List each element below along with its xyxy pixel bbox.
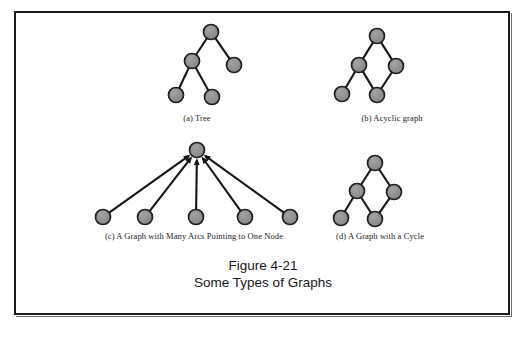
graph-node bbox=[368, 156, 383, 171]
graph-node bbox=[138, 210, 153, 225]
figure-subtitle: Some Types of Graphs bbox=[0, 275, 526, 290]
figure-root: (a) Tree (b) Acyclic graph (c) A Graph w… bbox=[0, 0, 526, 337]
graph-node bbox=[350, 184, 365, 199]
graph-edge bbox=[379, 197, 391, 214]
graph-edge bbox=[345, 70, 356, 88]
graph-edge bbox=[344, 196, 354, 212]
graph-node bbox=[169, 88, 184, 103]
graph-node bbox=[335, 87, 350, 102]
graph-node bbox=[185, 54, 200, 69]
graph-node bbox=[370, 29, 385, 44]
figure-number: Figure 4-21 bbox=[0, 258, 526, 273]
graph-edge bbox=[205, 156, 285, 213]
graph-edge bbox=[378, 168, 390, 186]
panel-caption-d: (d) A Graph with a Cycle bbox=[264, 231, 496, 241]
graph-nodes-layer bbox=[96, 25, 404, 227]
graph-edge bbox=[215, 37, 231, 60]
graph-node bbox=[189, 210, 204, 225]
graph-edge bbox=[360, 196, 371, 213]
graph-node bbox=[334, 211, 349, 226]
graph-node bbox=[389, 59, 404, 74]
graph-edge bbox=[362, 70, 374, 89]
graph-node bbox=[190, 143, 205, 158]
graph-edge bbox=[195, 37, 207, 55]
graph-node bbox=[227, 58, 242, 73]
graph-edge bbox=[195, 67, 209, 92]
graph-edge bbox=[380, 41, 392, 60]
panel-caption-b: (b) Acyclic graph bbox=[264, 113, 520, 123]
graph-node bbox=[283, 210, 298, 225]
graph-node bbox=[352, 58, 367, 73]
graph-node bbox=[370, 88, 385, 103]
graph-node bbox=[238, 210, 253, 225]
graph-edge bbox=[108, 156, 189, 213]
graph-node bbox=[96, 210, 111, 225]
graph-node bbox=[368, 212, 383, 227]
graph-edge bbox=[362, 41, 373, 59]
graph-edge bbox=[203, 158, 241, 212]
graph-edge bbox=[360, 168, 371, 185]
graph-edge bbox=[179, 67, 190, 90]
graph-node bbox=[204, 25, 219, 40]
graph-edge bbox=[380, 71, 392, 89]
graph-node bbox=[205, 90, 220, 105]
graph-arrowhead bbox=[194, 158, 200, 165]
graph-edge bbox=[149, 158, 191, 212]
graph-node bbox=[387, 185, 402, 200]
graph-edge bbox=[196, 160, 197, 211]
